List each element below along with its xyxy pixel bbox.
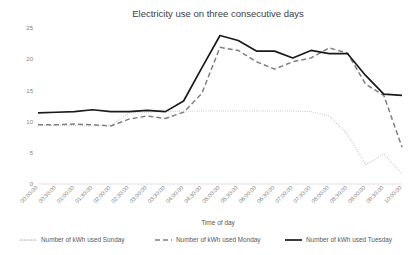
x-tick-label: 08:30:00	[328, 184, 348, 204]
x-tick-label: 09:30:00	[365, 184, 385, 204]
chart-container: Electricity use on three consecutive day…	[0, 0, 412, 255]
x-tick-label: 05:00:00	[201, 184, 221, 204]
y-axis-ticks: 0510152025	[26, 25, 33, 187]
x-tick-label: 00:00:00	[19, 184, 39, 204]
x-tick-label: 06:00:00	[237, 184, 257, 204]
x-tick-label: 09:00:00	[347, 184, 367, 204]
x-tick-label: 01:30:00	[74, 184, 94, 204]
chart-legend: Number of kWh used SundayNumber of kWh u…	[20, 236, 393, 244]
x-tick-label: 07:00:00	[274, 184, 294, 204]
series-lines	[38, 35, 402, 174]
legend-label-0: Number of kWh used Sunday	[41, 236, 125, 244]
y-tick-label: 15	[26, 88, 33, 94]
x-tick-label: 10:00:00	[383, 184, 403, 204]
x-tick-label: 03:30:00	[146, 184, 166, 204]
y-tick-label: 25	[26, 25, 33, 31]
x-tick-label: 01:00:00	[55, 184, 75, 204]
x-tick-label: 05:30:00	[219, 184, 239, 204]
chart-title: Electricity use on three consecutive day…	[132, 8, 304, 19]
x-tick-label: 04:00:00	[165, 184, 185, 204]
legend-label-2: Number of kWh used Tuesday	[306, 236, 393, 244]
x-tick-label: 07:30:00	[292, 184, 312, 204]
electricity-line-chart: Electricity use on three consecutive day…	[0, 0, 412, 255]
series-line-1	[38, 47, 402, 147]
x-tick-label: 00:30:00	[37, 184, 57, 204]
x-tick-label: 08:00:00	[310, 184, 330, 204]
y-tick-label: 10	[26, 119, 33, 125]
y-tick-label: 5	[30, 150, 34, 156]
legend-label-1: Number of kWh used Monday	[176, 236, 261, 244]
x-tick-label: 04:30:00	[183, 184, 203, 204]
x-tick-label: 02:00:00	[92, 184, 112, 204]
series-line-0	[38, 111, 402, 174]
x-tick-label: 06:30:00	[256, 184, 276, 204]
x-axis-ticks: 00:00:0000:30:0001:00:0001:30:0002:00:00…	[19, 184, 403, 204]
y-tick-label: 20	[26, 56, 33, 62]
x-axis-title: Time of day	[201, 219, 235, 227]
x-tick-label: 02:30:00	[110, 184, 130, 204]
x-tick-label: 03:00:00	[128, 184, 148, 204]
